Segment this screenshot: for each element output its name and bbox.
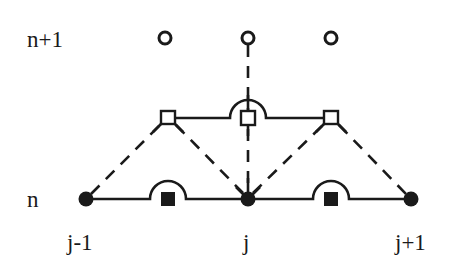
dashed-line-j-to-right-square [253, 125, 323, 193]
filled-square-node-left [161, 192, 175, 206]
space-index-label-j-minus-1: j-1 [66, 230, 93, 255]
open-square-node-right [324, 111, 338, 124]
filled-square-node-right [324, 192, 338, 206]
right-square-leg-right [338, 124, 346, 132]
open-square-node-left [161, 111, 175, 124]
dashed-line-jm1-to-left-square [91, 125, 160, 194]
right-square-leg-left [316, 124, 324, 132]
filled-circle-node-j-minus-1 [79, 192, 94, 207]
filled-circle-node-j [241, 192, 256, 207]
time-level-label-n-plus-1: n+1 [27, 27, 63, 52]
filled-circle-node-j-plus-1 [404, 192, 419, 207]
open-circle-node-center [242, 32, 254, 44]
open-square-node-center [241, 111, 255, 125]
dashed-line-left-square-to-j [176, 125, 243, 193]
space-index-label-j: j [242, 230, 249, 255]
open-circle-node-right [325, 32, 337, 44]
dashed-line-right-square-to-jp1 [339, 125, 406, 194]
stencil-diagram: n+1 n j-1 j j+1 [0, 0, 462, 277]
time-level-label-n: n [27, 187, 39, 212]
open-circle-node-left [159, 32, 171, 44]
space-index-label-j-plus-1: j+1 [394, 230, 426, 255]
